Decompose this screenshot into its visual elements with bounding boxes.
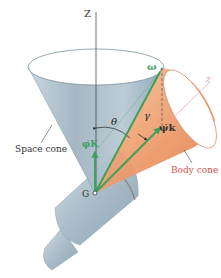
gyroscopic-precession-diagram xyxy=(0,0,221,278)
space-cone-label: Space cone xyxy=(15,145,67,154)
phi-K-label: φ̇K xyxy=(82,140,98,149)
G-point xyxy=(93,191,97,195)
body-cone-label: Body cone xyxy=(171,166,218,175)
z-axis-label: z xyxy=(206,75,211,84)
space-cone-leader xyxy=(41,125,52,143)
theta-label: θ xyxy=(111,117,117,127)
gamma-label: γ xyxy=(144,111,150,121)
Z-axis-label: Z xyxy=(84,9,91,19)
G-label: G xyxy=(82,190,89,199)
psi-k-label: ψ̇k xyxy=(159,123,175,133)
omega-label: ω xyxy=(147,62,157,72)
body-cone-leader xyxy=(184,150,192,163)
